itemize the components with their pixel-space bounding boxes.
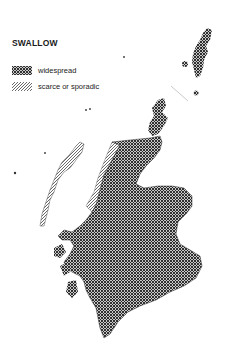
legend-item-scarce: scarce or sporadic [12,80,99,92]
legend-label-scarce: scarce or sporadic [38,82,99,91]
shetland-widespread [182,28,212,78]
orkney-widespread [148,98,168,136]
mainland-widespread [58,136,202,338]
distribution-map [0,0,230,352]
legend: widespread scarce or sporadic [12,64,99,96]
fair-isle [194,91,199,96]
outer-hebrides-scarce [40,142,84,226]
map-separator-line [171,86,188,101]
map-title: SWALLOW [12,38,58,48]
diagonal-hatch-swatch-icon [12,82,32,91]
crosshatch-swatch-icon [12,66,32,75]
legend-item-widespread: widespread [12,64,99,76]
legend-label-widespread: widespread [38,66,76,75]
